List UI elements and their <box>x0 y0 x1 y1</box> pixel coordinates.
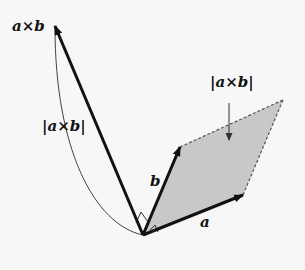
cross-product-diagram: a×b |a×b| |a×b| b a <box>0 0 305 270</box>
parallelogram <box>143 100 283 235</box>
diagram-graphic <box>0 0 305 270</box>
label-cross-vector: a×b <box>12 17 45 35</box>
label-vector-b: b <box>150 172 161 190</box>
label-cross-length: |a×b| <box>42 117 86 135</box>
label-vector-a: a <box>200 213 210 231</box>
label-area: |a×b| <box>210 73 254 91</box>
